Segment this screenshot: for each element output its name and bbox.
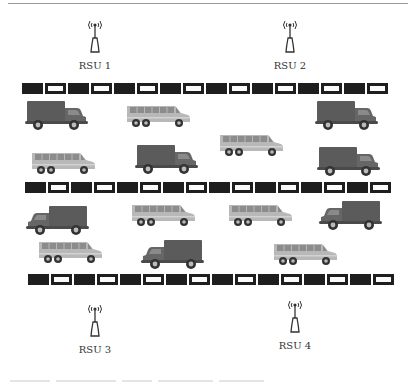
truck-11 (318, 199, 382, 235)
road-lane-marking (91, 83, 112, 94)
bus-icon (30, 151, 96, 175)
road-segment-dark (163, 182, 184, 193)
road-bottom (28, 274, 396, 285)
bus-icon (130, 203, 196, 227)
bus-12 (37, 240, 103, 268)
road-lane-marking (94, 182, 115, 193)
road-lane-marking (97, 274, 118, 285)
truck-icon (25, 99, 89, 131)
road-top (22, 83, 390, 94)
rsu-label: RSU 1 (65, 60, 125, 71)
rsu-label: RSU 4 (265, 340, 325, 351)
road-segment-dark (347, 182, 368, 193)
road-segment-dark (344, 83, 365, 94)
road-segment-dark (114, 83, 135, 94)
rsu-label: RSU 3 (65, 344, 125, 355)
road-lane-marking (235, 274, 256, 285)
rsu-3: RSU 3 (65, 302, 125, 355)
road-segment-dark (209, 182, 230, 193)
road-lane-marking (229, 83, 250, 94)
bus-10 (227, 203, 293, 231)
bus-5 (30, 151, 96, 179)
road-lane-marking (232, 182, 253, 193)
road-segment-dark (255, 182, 276, 193)
road-lane-marking (321, 83, 342, 94)
truck-8 (25, 204, 89, 240)
road-lane-marking (183, 83, 204, 94)
road-segment-dark (166, 274, 187, 285)
road-lane-marking (140, 182, 161, 193)
road-lane-marking (370, 182, 391, 193)
rsu-label: RSU 2 (260, 60, 320, 71)
road-segment-dark (350, 274, 371, 285)
road-lane-marking (373, 274, 394, 285)
road-lane-marking (48, 182, 69, 193)
truck-1 (25, 99, 89, 135)
road-segment-dark (74, 274, 95, 285)
road-lane-marking (51, 274, 72, 285)
truck-6 (135, 143, 199, 179)
faded-caption (10, 380, 264, 383)
road-segment-dark (252, 83, 273, 94)
road-segment-dark (28, 274, 49, 285)
road-lane-marking (367, 83, 388, 94)
truck-icon (140, 238, 204, 270)
truck-icon (25, 204, 89, 236)
road-segment-dark (117, 182, 138, 193)
road-segment-dark (25, 182, 46, 193)
road-segment-dark (71, 182, 92, 193)
rsu-4: RSU 4 (265, 298, 325, 351)
rsu-1: RSU 1 (65, 18, 125, 71)
bus-icon (272, 242, 338, 266)
antenna-icon (285, 298, 305, 334)
bus-icon (125, 104, 191, 128)
truck-icon (317, 145, 381, 177)
bus-icon (37, 240, 103, 264)
road-lane-marking (137, 83, 158, 94)
truck-icon (315, 99, 379, 131)
bus-4 (218, 133, 284, 161)
bus-icon (218, 133, 284, 157)
road-segment-dark (304, 274, 325, 285)
truck-13 (140, 238, 204, 274)
truck-3 (315, 99, 379, 135)
road-lane-marking (324, 182, 345, 193)
road-lane-marking (143, 274, 164, 285)
road-lane-marking (281, 274, 302, 285)
bus-14 (272, 242, 338, 270)
road-lane-marking (186, 182, 207, 193)
road-segment-dark (206, 83, 227, 94)
bus-2 (125, 104, 191, 132)
road-segment-dark (22, 83, 43, 94)
road-middle (25, 182, 393, 193)
road-lane-marking (278, 182, 299, 193)
bus-icon (227, 203, 293, 227)
road-lane-marking (327, 274, 348, 285)
road-segment-dark (68, 83, 89, 94)
road-lane-marking (275, 83, 296, 94)
road-segment-dark (258, 274, 279, 285)
antenna-icon (85, 302, 105, 338)
antenna-icon (280, 18, 300, 54)
truck-icon (318, 199, 382, 231)
road-segment-dark (301, 182, 322, 193)
antenna-icon (85, 18, 105, 54)
road-segment-dark (212, 274, 233, 285)
rsu-2: RSU 2 (260, 18, 320, 71)
road-segment-dark (160, 83, 181, 94)
top-rule (8, 3, 408, 4)
road-segment-dark (120, 274, 141, 285)
truck-icon (135, 143, 199, 175)
road-lane-marking (189, 274, 210, 285)
road-lane-marking (45, 83, 66, 94)
truck-7 (317, 145, 381, 181)
road-segment-dark (298, 83, 319, 94)
bus-9 (130, 203, 196, 231)
